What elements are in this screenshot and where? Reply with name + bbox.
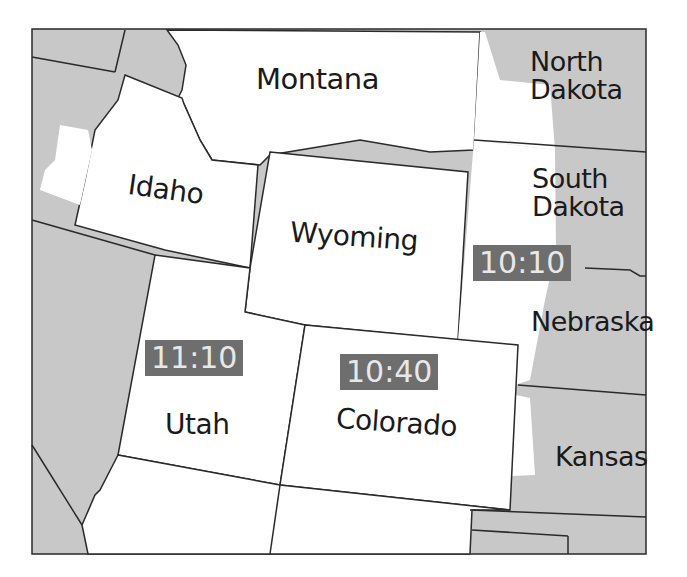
time-badge-dakota-nebraska: 10:10 [473,245,571,281]
time-badge-utah: 11:10 [145,340,243,376]
north-dakota-line1: North [530,48,623,76]
state-label-south-dakota: South Dakota [532,165,625,222]
south-dakota-line1: South [532,165,625,193]
south-dakota-line2: Dakota [532,193,625,221]
time-badge-colorado: 10:40 [340,354,438,390]
state-label-utah: Utah [165,410,229,439]
state-label-kansas: Kansas [555,443,648,471]
north-dakota-line2: Dakota [530,76,623,104]
state-label-north-dakota: North Dakota [530,48,623,105]
state-label-montana: Montana [256,64,379,94]
state-label-colorado: Colorado [335,404,458,442]
regional-map: Montana North Dakota Idaho Wyoming South… [0,0,687,577]
state-label-nebraska: Nebraska [531,308,654,336]
